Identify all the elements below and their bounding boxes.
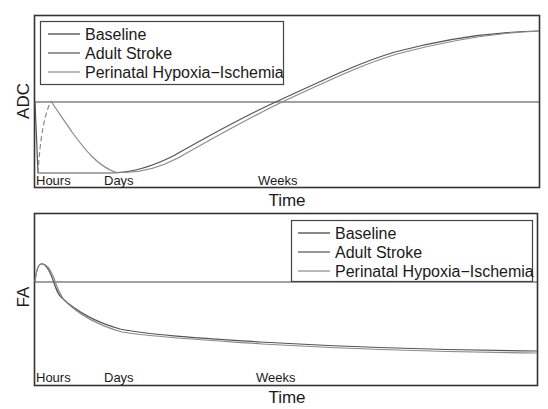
fa-tick-hours: Hours: [36, 370, 71, 385]
fa-legend-baseline-label: Baseline: [335, 225, 396, 242]
legend-baseline-label: Baseline: [85, 26, 146, 43]
adc-tick-days: Days: [104, 173, 134, 188]
adc-tick-weeks: Weeks: [258, 173, 298, 188]
fa-y-axis-label: FA: [14, 286, 33, 307]
fa-legend: Baseline Adult Stroke Perinatal Hypoxia−…: [292, 221, 534, 282]
fa-legend-adult-stroke-label: Adult Stroke: [335, 244, 422, 261]
fa-legend-perinatal-label: Perinatal Hypoxia−Ischemia: [335, 263, 534, 280]
fa-tick-days: Days: [104, 370, 134, 385]
fa-tick-weeks: Weeks: [256, 370, 296, 385]
fa-chart: Baseline Adult Stroke Perinatal Hypoxia−…: [14, 214, 538, 408]
legend-adult-stroke-label: Adult Stroke: [85, 45, 172, 62]
adc-legend: Baseline Adult Stroke Perinatal Hypoxia−…: [41, 22, 284, 85]
figure: Baseline Adult Stroke Perinatal Hypoxia−…: [0, 0, 548, 409]
fa-x-axis-label: Time: [268, 388, 305, 407]
adc-perinatal-dashed-segment: [38, 101, 51, 173]
adc-tick-hours: Hours: [36, 173, 71, 188]
legend-perinatal-label: Perinatal Hypoxia−Ischemia: [85, 64, 284, 81]
adc-y-axis-label: ADC: [14, 83, 33, 119]
adc-chart: Baseline Adult Stroke Perinatal Hypoxia−…: [14, 16, 540, 211]
adc-x-axis-label: Time: [268, 191, 305, 210]
